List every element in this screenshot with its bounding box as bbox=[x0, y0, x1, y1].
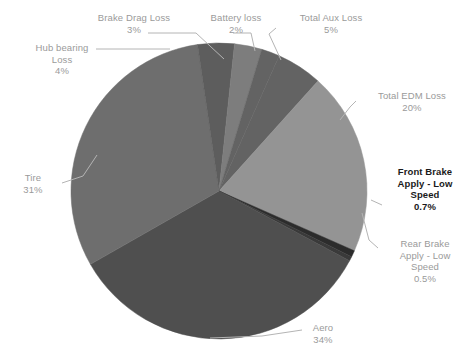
slice-label-aero: Aero 34% bbox=[300, 322, 346, 345]
slice-label-tire: Tire 31% bbox=[10, 172, 56, 195]
slice-label-tire-name: Tire bbox=[10, 172, 56, 184]
slice-label-front-brake-name: Front Brake bbox=[386, 166, 464, 178]
slice-label-battery-loss-name: Battery loss bbox=[196, 12, 276, 24]
slice-label-hub-bearing-loss-value: 4% bbox=[22, 65, 102, 77]
leader-line-front-brake bbox=[371, 200, 382, 205]
slice-label-front-brake-name2: Apply - Low bbox=[386, 178, 464, 190]
slice-label-total-aux-loss-value: 5% bbox=[276, 24, 386, 36]
slice-label-brake-drag-loss-value: 3% bbox=[74, 24, 194, 36]
pie-chart-figure: Brake Drag Loss 3% Battery loss 2% Total… bbox=[0, 0, 468, 362]
slice-label-rear-brake-name3: Speed bbox=[386, 261, 464, 273]
slice-label-rear-brake-value: 0.5% bbox=[386, 273, 464, 285]
slice-label-total-edm-loss-name: Total EDM Loss bbox=[360, 90, 464, 102]
slice-label-hub-bearing-loss-name: Hub bearing bbox=[22, 42, 102, 54]
slice-label-tire-value: 31% bbox=[10, 184, 56, 196]
slice-label-front-brake-apply-low-speed: Front Brake Apply - Low Speed 0.7% bbox=[386, 166, 464, 212]
slice-label-total-aux-loss-name: Total Aux Loss bbox=[276, 12, 386, 24]
slice-label-brake-drag-loss-name: Brake Drag Loss bbox=[74, 12, 194, 24]
slice-label-front-brake-value: 0.7% bbox=[386, 201, 464, 213]
slice-label-rear-brake-name2: Apply - Low bbox=[386, 250, 464, 262]
slice-label-aero-name: Aero bbox=[300, 322, 346, 334]
slice-label-battery-loss: Battery loss 2% bbox=[196, 12, 276, 35]
slice-label-battery-loss-value: 2% bbox=[196, 24, 276, 36]
slice-label-rear-brake-name: Rear Brake bbox=[386, 238, 464, 250]
slice-label-hub-bearing-loss-name2: Loss bbox=[22, 54, 102, 66]
slice-label-total-aux-loss: Total Aux Loss 5% bbox=[276, 12, 386, 35]
slice-label-front-brake-name3: Speed bbox=[386, 189, 464, 201]
slice-label-hub-bearing-loss: Hub bearing Loss 4% bbox=[22, 42, 102, 77]
slice-label-brake-drag-loss: Brake Drag Loss 3% bbox=[74, 12, 194, 35]
pie-slice-group bbox=[71, 43, 367, 339]
slice-label-aero-value: 34% bbox=[300, 334, 346, 346]
slice-label-total-edm-loss-value: 20% bbox=[360, 102, 464, 114]
slice-label-total-edm-loss: Total EDM Loss 20% bbox=[360, 90, 464, 113]
slice-label-rear-brake-apply-low-speed: Rear Brake Apply - Low Speed 0.5% bbox=[386, 238, 464, 284]
